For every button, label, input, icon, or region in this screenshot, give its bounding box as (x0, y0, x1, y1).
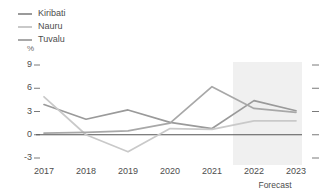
forecast-band (233, 62, 302, 165)
x-tick-label-2023: 2023 (276, 166, 316, 176)
y-tick-label-neg3: -3 (14, 152, 32, 162)
y-tick-label-3: 3 (14, 106, 32, 116)
x-tick-label-2021: 2021 (192, 166, 232, 176)
chart-container: Kiribati Nauru Tuvalu % 9 6 3 0 -3 2017 … (0, 0, 325, 196)
x-tick-label-2020: 2020 (150, 166, 190, 176)
y-tick-label-9: 9 (14, 59, 32, 69)
y-tick-label-0: 0 (14, 129, 32, 139)
x-tick-label-2019: 2019 (108, 166, 148, 176)
forecast-annotation-label: Forecast (245, 180, 305, 190)
x-tick-label-2018: 2018 (66, 166, 106, 176)
x-tick-label-2022: 2022 (234, 166, 274, 176)
x-tick-label-2017: 2017 (24, 166, 64, 176)
y-tick-label-6: 6 (14, 82, 32, 92)
